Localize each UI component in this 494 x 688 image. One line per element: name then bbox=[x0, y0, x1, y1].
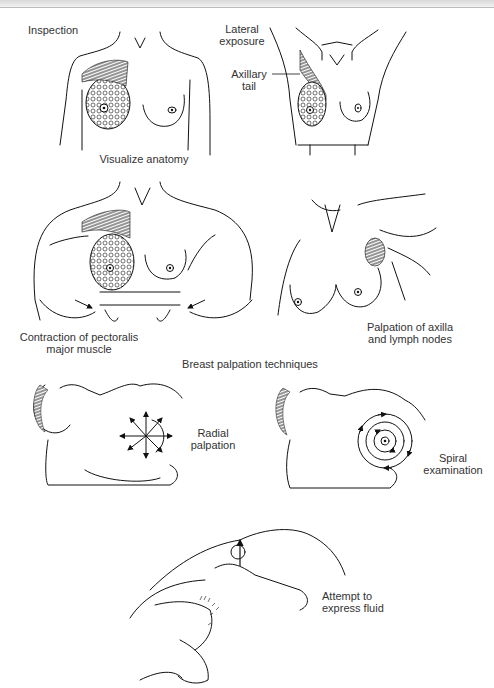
express-fluid-figure bbox=[130, 530, 345, 684]
axillary-tail-label: Axillary tail bbox=[228, 68, 270, 92]
radial-palpation-figure bbox=[34, 384, 182, 485]
express-fluid-caption: Attempt to express fluid bbox=[322, 590, 402, 614]
inspection-caption: Visualize anatomy bbox=[84, 153, 204, 165]
spiral-examination-caption: Spiral examination bbox=[418, 452, 488, 476]
pectoralis-figure bbox=[34, 182, 252, 321]
inspection-figure bbox=[60, 32, 210, 155]
axilla-palpation-caption: Palpation of axilla and lymph nodes bbox=[360, 321, 460, 345]
pectoralis-caption: Contraction of pectoralis major muscle bbox=[14, 331, 144, 355]
section-heading: Breast palpation techniques bbox=[140, 358, 360, 370]
radial-palpation-caption: Radial palpation bbox=[188, 427, 238, 451]
spiral-examination-figure bbox=[276, 388, 425, 488]
lateral-exposure-title: Lateral exposure bbox=[212, 23, 272, 47]
lateral-exposure-figure bbox=[270, 28, 406, 155]
spiral-arrows-icon bbox=[358, 414, 412, 468]
radial-arrows-icon bbox=[120, 412, 172, 458]
inspection-title: Inspection bbox=[28, 24, 78, 36]
axilla-palpation-figure bbox=[278, 194, 436, 315]
